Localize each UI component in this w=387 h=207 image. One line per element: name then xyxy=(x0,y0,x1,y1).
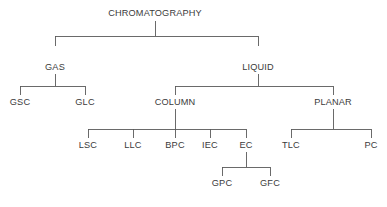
node-pc: PC xyxy=(364,141,377,150)
node-llc: LLC xyxy=(124,141,141,150)
node-lsc: LSC xyxy=(79,141,97,150)
node-liquid: LIQUID xyxy=(242,63,274,72)
node-glc: GLC xyxy=(75,98,94,107)
edge-group-chromatography xyxy=(55,21,258,46)
node-gsc: GSC xyxy=(10,98,30,107)
node-gfc: GFC xyxy=(260,179,280,188)
node-gas: GAS xyxy=(45,63,65,72)
node-iec: IEC xyxy=(202,141,218,150)
node-tlc: TLC xyxy=(282,141,300,150)
node-bpc: BPC xyxy=(165,141,184,150)
node-gpc: GPC xyxy=(212,179,232,188)
edge-group-liquid xyxy=(175,74,333,95)
edge-group-gas xyxy=(20,74,85,95)
edge-group-planar xyxy=(291,109,371,138)
node-ec: EC xyxy=(239,141,252,150)
node-chromatography: CHROMATOGRAPHY xyxy=(108,9,202,18)
edge-group-column xyxy=(88,109,246,138)
node-planar: PLANAR xyxy=(314,98,352,107)
node-column: COLUMN xyxy=(155,98,196,107)
edge-group-ec xyxy=(222,152,270,176)
chromatography-tree-diagram: CHROMATOGRAPHY GAS LIQUID GSC GLC COLUMN… xyxy=(0,0,387,207)
